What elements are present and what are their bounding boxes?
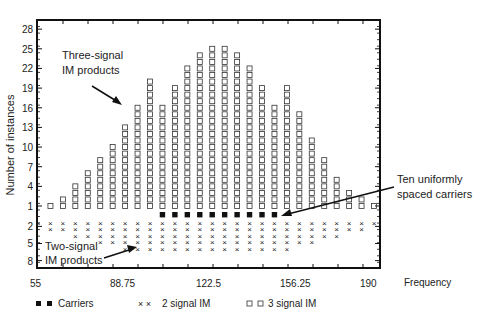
three-signal-marker <box>148 105 153 110</box>
x-tick-label: 88.75 <box>110 278 135 289</box>
three-signal-marker <box>235 158 240 163</box>
three-signal-marker <box>210 158 215 163</box>
three-signal-marker <box>148 131 153 136</box>
three-signal-marker <box>197 92 202 97</box>
three-signal-marker <box>210 138 215 143</box>
three-signal-marker <box>284 131 289 136</box>
three-signal-marker <box>210 92 215 97</box>
three-signal-marker <box>284 171 289 176</box>
three-signal-marker <box>247 118 252 123</box>
three-signal-marker <box>284 158 289 163</box>
three-signal-marker <box>197 79 202 84</box>
three-signal-marker <box>160 151 165 156</box>
two-signal-marker: × <box>260 245 265 254</box>
three-signal-marker <box>85 171 90 176</box>
y-axis-label: Number of instances <box>4 94 16 195</box>
arrow-head-icon <box>281 209 292 216</box>
three-signal-marker <box>247 190 252 195</box>
three-signal-marker <box>123 204 128 209</box>
three-signal-marker <box>247 131 252 136</box>
three-signal-marker <box>309 158 314 163</box>
three-signal-marker <box>322 184 327 189</box>
three-signal-marker <box>222 66 227 71</box>
three-signal-marker <box>297 125 302 130</box>
three-signal-marker <box>210 53 215 58</box>
three-signal-marker <box>172 151 177 156</box>
three-signal-marker <box>172 138 177 143</box>
carrier-marker <box>272 212 277 217</box>
three-signal-marker <box>210 118 215 123</box>
three-signal-marker <box>347 190 352 195</box>
three-signal-marker <box>172 112 177 117</box>
three-signal-marker <box>172 145 177 150</box>
three-signal-marker <box>197 53 202 58</box>
three-signal-marker <box>185 164 190 169</box>
three-signal-marker <box>272 112 277 117</box>
three-signal-marker <box>260 164 265 169</box>
legend-2sig-marker: × × <box>138 299 151 309</box>
x-tick-label: 156.25 <box>280 278 311 289</box>
three-signal-marker <box>172 184 177 189</box>
three-signal-marker <box>123 171 128 176</box>
three-signal-marker <box>172 204 177 209</box>
legend-2sig-label: 2 signal IM <box>162 298 210 309</box>
three-signal-marker <box>210 125 215 130</box>
three-signal-marker <box>297 171 302 176</box>
three-signal-marker <box>135 105 140 110</box>
three-signal-marker <box>135 171 140 176</box>
three-signal-marker <box>222 79 227 84</box>
x-axis-label: Frequency <box>404 277 451 288</box>
y-tick-label: 5 <box>27 238 33 249</box>
y-tick-label: 7 <box>27 162 33 173</box>
three-signal-marker <box>185 197 190 202</box>
three-signal-marker <box>123 164 128 169</box>
three-signal-marker <box>222 53 227 58</box>
three-signal-marker <box>98 177 103 182</box>
three-signal-marker <box>297 151 302 156</box>
three-signal-marker <box>172 197 177 202</box>
three-signal-marker <box>247 158 252 163</box>
three-signal-marker <box>322 197 327 202</box>
three-signal-marker <box>222 46 227 51</box>
three-signal-marker <box>210 66 215 71</box>
three-signal-marker <box>222 86 227 91</box>
three-signal-marker <box>148 184 153 189</box>
three-signal-marker <box>284 184 289 189</box>
three-signal-marker <box>272 197 277 202</box>
three-signal-marker <box>85 197 90 202</box>
three-signal-marker <box>210 46 215 51</box>
three-signal-marker <box>135 197 140 202</box>
three-signal-marker <box>123 158 128 163</box>
carrier-marker <box>197 212 202 217</box>
carrier-marker <box>185 212 190 217</box>
three-signal-marker <box>235 145 240 150</box>
three-signal-marker <box>260 145 265 150</box>
three-signal-marker <box>210 190 215 195</box>
three-signal-marker <box>148 92 153 97</box>
two-signal-marker: × <box>173 245 178 254</box>
three-signal-marker <box>210 79 215 84</box>
three-signal-marker <box>185 86 190 91</box>
three-signal-marker <box>260 131 265 136</box>
three-signal-marker <box>135 204 140 209</box>
three-signal-marker <box>160 197 165 202</box>
three-signal-marker <box>222 99 227 104</box>
three-signal-marker <box>297 131 302 136</box>
y-tick-label: 19 <box>22 83 34 94</box>
three-signal-marker <box>185 105 190 110</box>
three-signal-marker <box>148 138 153 143</box>
three-signal-marker <box>60 197 65 202</box>
three-signal-marker <box>185 151 190 156</box>
three-signal-marker <box>85 190 90 195</box>
three-signal-marker <box>247 145 252 150</box>
two-signal-marker: × <box>222 245 227 254</box>
annotation-three-signal: Three-signal <box>62 49 123 61</box>
three-signal-marker <box>247 99 252 104</box>
three-signal-marker <box>185 177 190 182</box>
three-signal-marker <box>247 112 252 117</box>
three-signal-marker <box>197 138 202 143</box>
three-signal-marker <box>272 131 277 136</box>
two-signal-marker: × <box>322 232 327 241</box>
three-signal-marker <box>160 184 165 189</box>
carrier-marker <box>160 212 165 217</box>
